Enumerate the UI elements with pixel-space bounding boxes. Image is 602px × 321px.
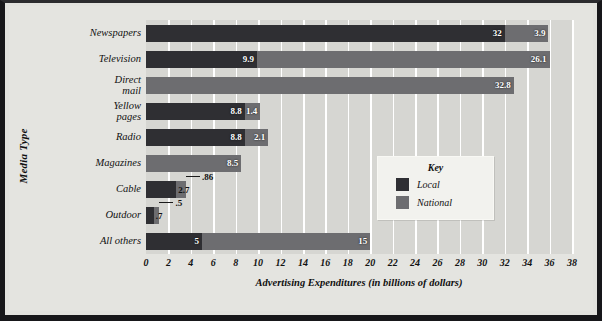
category-label-cable: Cable: [33, 176, 141, 202]
category-label-all-others: All others: [33, 228, 141, 254]
bar-row: 8.5: [146, 155, 572, 172]
category-label-column: NewspapersTelevisionDirectmailYellowpage…: [33, 20, 141, 254]
bar-value-label: 26.1: [531, 54, 547, 64]
bar-segment-national: 3.9: [505, 25, 549, 42]
category-label-television: Television: [33, 46, 141, 72]
x-tick-28: 28: [455, 257, 465, 268]
callout-leader-line: [186, 176, 200, 177]
x-tick-20: 20: [365, 257, 375, 268]
bar-row: 8.82.1: [146, 129, 572, 146]
bar-callout-local: .7: [156, 211, 163, 221]
bar-value-label: 1.4: [246, 106, 257, 116]
bar-segment-national: 32.8: [146, 77, 514, 94]
bar-segment-national: 1.4: [245, 103, 261, 120]
category-label-radio: Radio: [33, 124, 141, 150]
category-label-outdoor: Outdoor: [33, 202, 141, 228]
gridline: [572, 20, 574, 254]
x-tick-2: 2: [166, 257, 171, 268]
bar-segment-national: 2.1: [245, 129, 269, 146]
plot-area: 323.99.926.132.88.81.48.82.18.5.862.7.5.…: [146, 20, 574, 254]
legend-swatch-local-icon: [396, 178, 409, 191]
legend-label-national: National: [417, 197, 452, 208]
x-tick-18: 18: [343, 257, 353, 268]
bar-segment-local: 8.8: [146, 103, 245, 120]
bar-value-label: 2.1: [254, 132, 265, 142]
bar-row: [146, 207, 572, 224]
x-tick-0: 0: [144, 257, 149, 268]
x-tick-14: 14: [298, 257, 308, 268]
bar-value-label: 32: [493, 28, 502, 38]
category-label-newspapers: Newspapers: [33, 20, 141, 46]
bar-value-label: 8.5: [227, 158, 238, 168]
x-tick-12: 12: [276, 257, 286, 268]
x-tick-6: 6: [211, 257, 216, 268]
bar-row: 515: [146, 233, 572, 250]
x-axis-tick-labels: 02468101214161820222426283032343638: [146, 257, 572, 273]
category-label-yellow-pages: Yellowpages: [33, 98, 141, 124]
bar-segment-local: 9.9: [146, 51, 257, 68]
x-tick-36: 36: [545, 257, 555, 268]
x-axis-title: Advertising Expenditures (in billions of…: [146, 277, 572, 288]
bar-segment-local: 32: [146, 25, 505, 42]
legend-swatch-national-icon: [396, 196, 409, 209]
bar-value-label: .86: [202, 172, 213, 182]
bar-value-label: 9.9: [243, 54, 254, 64]
bar-segment-local: 5: [146, 233, 202, 250]
bar-row: 32.8: [146, 77, 572, 94]
legend-title: Key: [378, 162, 493, 173]
bar-segment-national: 15: [202, 233, 370, 250]
y-axis-title: Media Type: [17, 128, 29, 183]
legend-entry-local: Local: [396, 178, 493, 191]
x-tick-38: 38: [567, 257, 577, 268]
x-tick-4: 4: [188, 257, 193, 268]
bar-value-label: .7: [156, 211, 163, 221]
bar-value-label: 8.8: [230, 106, 241, 116]
callout-leader-line: [159, 202, 173, 203]
bar-value-label: 8.8: [230, 132, 241, 142]
bar-callout-national: .5: [159, 198, 182, 208]
bar-value-label: 32.8: [495, 80, 511, 90]
x-tick-8: 8: [233, 257, 238, 268]
x-tick-22: 22: [388, 257, 398, 268]
chart-inner-panel: Media Type NewspapersTelevisionDirectmai…: [9, 6, 593, 311]
bar-row: 8.81.4: [146, 103, 572, 120]
x-tick-24: 24: [410, 257, 420, 268]
bar-row: 9.926.1: [146, 51, 572, 68]
x-tick-10: 10: [253, 257, 263, 268]
bar-row: 323.9: [146, 25, 572, 42]
bar-callout-national: .86: [186, 172, 213, 182]
bar-segment-local: [146, 181, 176, 198]
legend-label-local: Local: [417, 179, 440, 190]
bar-value-label: 3.9: [534, 28, 545, 38]
legend-key-box: Key Local National: [377, 156, 494, 220]
bar-segment-national: 26.1: [257, 51, 550, 68]
bar-value-label: 2.7: [178, 185, 189, 195]
bar-value-label: .5: [175, 198, 182, 208]
bar-segment-local: [146, 207, 154, 224]
bar-value-label: 15: [358, 236, 367, 246]
category-label-magazines: Magazines: [33, 150, 141, 176]
x-tick-26: 26: [432, 257, 442, 268]
x-tick-32: 32: [500, 257, 510, 268]
bar-segment-national: 8.5: [146, 155, 241, 172]
bar-segment-local: 8.8: [146, 129, 245, 146]
bar-value-label: 5: [195, 236, 200, 246]
x-tick-16: 16: [320, 257, 330, 268]
legend-entry-national: National: [396, 196, 493, 209]
x-tick-34: 34: [522, 257, 532, 268]
x-tick-30: 30: [477, 257, 487, 268]
bar-callout-local: 2.7: [178, 185, 189, 195]
chart-frame: Media Type NewspapersTelevisionDirectmai…: [0, 0, 602, 321]
bar-row: [146, 181, 572, 198]
category-label-direct-mail: Directmail: [33, 72, 141, 98]
